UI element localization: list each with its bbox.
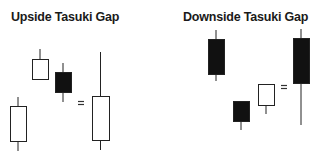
bearish-candle bbox=[209, 30, 225, 81]
bearish-candle bbox=[56, 63, 72, 102]
candle-body bbox=[11, 107, 27, 142]
candle-body bbox=[209, 40, 225, 75]
downside-panel bbox=[209, 29, 310, 130]
candle-body bbox=[33, 60, 49, 80]
candle-body bbox=[294, 39, 310, 84]
candle-body bbox=[56, 73, 72, 93]
bullish-candle bbox=[33, 49, 49, 80]
bullish-candle bbox=[11, 97, 27, 151]
candlestick-diagram bbox=[0, 0, 317, 157]
upside-panel bbox=[11, 49, 110, 151]
candle-body bbox=[259, 85, 275, 106]
bullish-candle bbox=[259, 85, 275, 115]
bullish-candle bbox=[93, 52, 110, 150]
bearish-candle bbox=[234, 102, 250, 131]
candle-body bbox=[93, 97, 110, 141]
candle-body bbox=[234, 102, 250, 122]
bearish-candle bbox=[294, 29, 310, 125]
